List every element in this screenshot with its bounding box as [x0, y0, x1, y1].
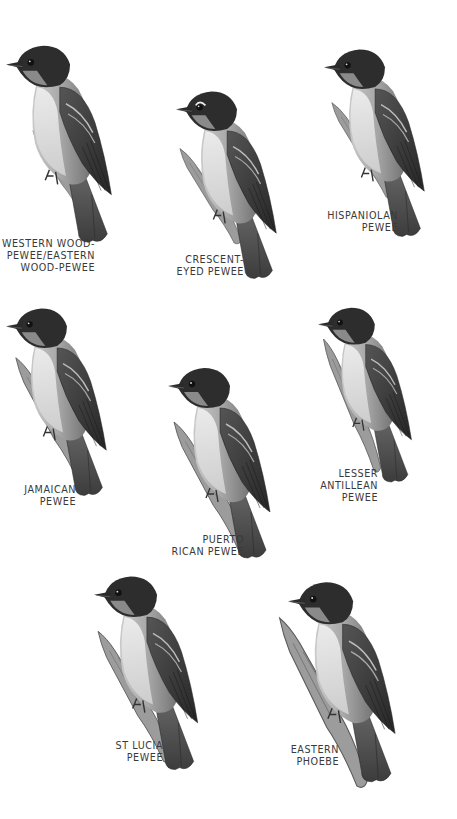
lesser-antillean-pewee-illustration	[318, 292, 428, 496]
lesser-antillean-pewee-label: LESSER ANTILLEAN PEWEE	[320, 468, 378, 504]
field-guide-plate: WESTERN WOOD- PEWEE/EASTERN WOOD-PEWEE C…	[0, 0, 457, 819]
jamaican-pewee-label: JAMAICAN PEWEE	[24, 484, 76, 508]
crescent-eyed-pewee-label: CRESCENT- EYED PEWEE	[177, 254, 244, 278]
eastern-phoebe-label: EASTERN PHOEBE	[291, 744, 339, 768]
st-lucia-pewee-label: ST LUCIA PEWEE	[116, 740, 163, 764]
hispaniolan-pewee-label: HISPANIOLAN PEWEE	[327, 210, 398, 234]
puerto-rican-pewee-label: PUERTO RICAN PEWEE	[172, 534, 245, 558]
western-wood-pewee-label: WESTERN WOOD- PEWEE/EASTERN WOOD-PEWEE	[2, 238, 95, 274]
jamaican-pewee-illustration	[6, 298, 124, 504]
western-wood-pewee-illustration	[6, 38, 130, 248]
